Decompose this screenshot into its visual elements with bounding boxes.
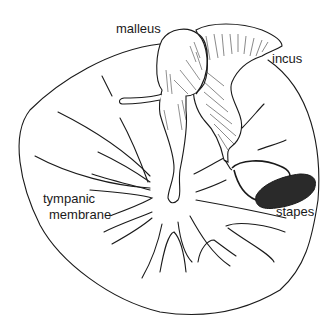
label-incus: incus xyxy=(272,52,302,66)
malleus-bone xyxy=(120,29,208,203)
label-malleus: malleus xyxy=(116,22,161,36)
label-membrane: membrane xyxy=(49,208,111,222)
ear-diagram: malleus incus stapes tympanic membrane xyxy=(0,0,331,336)
label-stapes: stapes xyxy=(276,205,314,219)
stapes-bone xyxy=(232,161,315,209)
label-tympanic: tympanic xyxy=(43,192,95,206)
incus-bone xyxy=(193,24,282,170)
